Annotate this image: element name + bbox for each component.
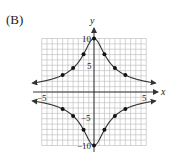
y-tick-5: 5 [87,61,92,71]
x-axis-label: x [160,86,166,97]
data-point [102,128,106,132]
y-tick-neg5: −5 [81,113,91,123]
graph: x y −5 5 10 5 −5 −10 [0,0,175,159]
y-axis-label: y [89,15,95,26]
data-point [92,37,96,41]
x-tick-pos5: 5 [142,93,147,103]
data-point [61,73,65,77]
data-point [102,52,106,56]
data-point [82,128,86,132]
data-point [71,66,75,70]
data-point [113,66,117,70]
data-point [123,73,127,77]
data-point [123,107,127,111]
data-point [92,144,96,148]
y-tick-neg10: −10 [77,141,92,151]
data-point [71,114,75,118]
data-point [61,107,65,111]
data-point [113,114,117,118]
data-point [82,52,86,56]
